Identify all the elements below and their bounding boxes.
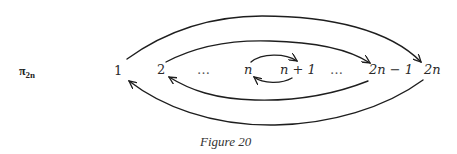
- arrow-2n-1-to-2: [169, 77, 368, 100]
- pi-symbol: π: [19, 64, 26, 78]
- arrow-layer: [0, 0, 457, 154]
- permutation-label: π2n: [19, 65, 35, 80]
- node-2n: 2n: [424, 63, 441, 76]
- permutation-diagram: π2n 1 2 … n n + 1 … 2n − 1 2n Figure 20: [0, 0, 457, 154]
- arrow-2-to-2n-1: [166, 41, 370, 63]
- arrow-n+1-to-n: [254, 77, 292, 82]
- node-ellipsis-1: …: [197, 63, 212, 76]
- node-1: 1: [114, 64, 122, 77]
- node-n-plus-1: n + 1: [280, 63, 316, 76]
- arrow-2n-to-1: [129, 80, 423, 125]
- node-2n-minus-1: 2n − 1: [369, 63, 413, 76]
- pi-subscript: 2n: [26, 70, 36, 80]
- node-ellipsis-2: …: [330, 63, 345, 76]
- node-n: n: [244, 63, 252, 76]
- node-2: 2: [157, 63, 165, 76]
- arrow-n-to-n+1: [251, 55, 297, 62]
- figure-caption: Figure 20: [200, 134, 251, 150]
